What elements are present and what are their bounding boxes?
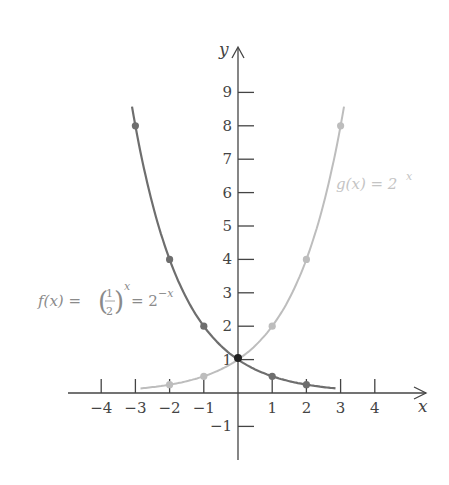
f-curve <box>132 107 336 389</box>
x-tick-label: 3 <box>336 399 346 417</box>
y-tick-label: −1 <box>210 417 232 435</box>
y-tick-label: 6 <box>222 184 232 202</box>
x-axis-label: x <box>418 396 428 416</box>
svg-text:−x: −x <box>158 287 174 300</box>
x-tick-label: −1 <box>193 399 215 417</box>
y-axis-label: y <box>218 39 229 59</box>
f-data-point <box>200 323 207 330</box>
y-tick-label: 7 <box>222 150 232 168</box>
svg-text:2: 2 <box>106 305 113 318</box>
g-data-point <box>200 373 207 380</box>
g-data-point <box>337 122 344 129</box>
x-tick-label: 4 <box>370 399 380 417</box>
x-tick-label: −3 <box>124 399 146 417</box>
x-tick-label: 2 <box>302 399 312 417</box>
g-points <box>166 122 344 388</box>
y-tick-label: 8 <box>222 117 232 135</box>
y-tick-label: 5 <box>222 217 232 235</box>
svg-text:x: x <box>124 280 131 293</box>
g-curve <box>141 107 345 389</box>
g-data-point <box>269 323 276 330</box>
svg-text:f(x) =: f(x) = <box>37 292 81 310</box>
intersection-point <box>234 354 242 362</box>
svg-text:g(x) = 2: g(x) = 2 <box>336 175 397 193</box>
y-tick-label: 3 <box>222 284 232 302</box>
f-label: f(x) = ( 1 2 ) x = 2 −x <box>37 280 174 318</box>
y-tick-label: 9 <box>222 83 232 101</box>
x-tick-label: −4 <box>90 399 112 417</box>
svg-text:1: 1 <box>106 287 113 300</box>
y-tick-label: 2 <box>222 317 232 335</box>
svg-text:= 2: = 2 <box>131 292 158 310</box>
svg-text:): ) <box>114 286 124 316</box>
f-data-point <box>132 122 139 129</box>
y-tick-labels: −1123456789 <box>210 83 232 435</box>
g-label: g(x) = 2 x <box>336 170 413 193</box>
x-tick-label: 1 <box>267 399 277 417</box>
f-points <box>132 122 310 388</box>
y-ticks <box>238 92 254 426</box>
x-tick-label: −2 <box>159 399 181 417</box>
g-data-point <box>166 381 173 388</box>
f-data-point <box>166 256 173 263</box>
svg-text:x: x <box>406 170 413 183</box>
x-tick-labels: −4−3−2−11234 <box>90 399 379 417</box>
g-data-point <box>303 256 310 263</box>
y-tick-label: 4 <box>222 250 232 268</box>
f-data-point <box>269 373 276 380</box>
f-data-point <box>303 381 310 388</box>
exponential-functions-chart: −4−3−2−11234 −1123456789 x y f(x) = ( 1 … <box>0 0 449 485</box>
